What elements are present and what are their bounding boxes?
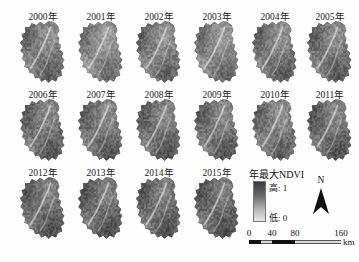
map-panel-raster: [189, 20, 245, 86]
ndvi-multipanel-figure: 2000年2001年2002年2003年2004年2005年2006年2007年…: [0, 0, 359, 262]
map-panel: 2010年: [246, 87, 304, 165]
map-panel: 2015年: [188, 165, 246, 243]
map-panel-raster: [73, 98, 129, 164]
color-ramp: [253, 181, 266, 222]
map-panel: 2009年: [188, 87, 246, 165]
map-panel: 2012年: [14, 165, 72, 243]
map-panel: 2003年: [188, 9, 246, 87]
north-arrow-icon: [310, 186, 332, 216]
scale-bar-segment: [249, 240, 261, 244]
scale-bar-segments: [249, 240, 341, 244]
north-arrow: N: [309, 175, 333, 223]
map-panel: 2004年: [246, 9, 304, 87]
map-panel: 2001年: [72, 9, 130, 87]
map-panel-raster: [73, 176, 129, 242]
map-panel: 2013年: [72, 165, 130, 243]
legend: 年最大NDVI 高: 1 低: 0 N 04080160 km: [249, 166, 359, 258]
map-panel-raster: [131, 176, 187, 242]
scale-bar-segment: [272, 240, 295, 244]
map-panel-raster: [302, 98, 358, 164]
map-panel-raster: [131, 20, 187, 86]
map-panel: 2006年: [14, 87, 72, 165]
map-panel-raster: [131, 98, 187, 164]
scale-bar-tick: 0: [247, 228, 252, 238]
map-panel: 2002年: [130, 9, 188, 87]
scale-bar-segment: [261, 240, 273, 244]
map-panel: 2008年: [130, 87, 188, 165]
legend-high-label: 高: 1: [269, 181, 287, 194]
map-panel-raster: [247, 98, 303, 164]
legend-title: 年最大NDVI: [249, 166, 304, 181]
map-panel: 2011年: [301, 87, 359, 165]
map-panel-raster: [189, 98, 245, 164]
map-panel: 2014年: [130, 165, 188, 243]
map-panel-raster: [302, 20, 358, 86]
color-ramp-gradient: [254, 182, 265, 221]
map-panel: 2000年: [14, 9, 72, 87]
scale-bar-tick: 80: [291, 228, 300, 238]
map-panel-raster: [189, 176, 245, 242]
map-panel-raster: [15, 176, 71, 242]
north-arrow-letter: N: [309, 175, 333, 186]
map-panel: 2007年: [72, 87, 130, 165]
scale-bar-tick: 40: [268, 228, 277, 238]
map-panel-raster: [15, 98, 71, 164]
scale-bar: 04080160 km: [249, 228, 357, 254]
map-panel: 2005年: [301, 9, 359, 87]
map-panel-raster: [247, 20, 303, 86]
scale-bar-segment: [295, 240, 341, 244]
scale-bar-unit: km: [343, 237, 355, 247]
map-panel-raster: [15, 20, 71, 86]
legend-low-label: 低: 0: [269, 211, 287, 224]
map-panel-raster: [73, 20, 129, 86]
